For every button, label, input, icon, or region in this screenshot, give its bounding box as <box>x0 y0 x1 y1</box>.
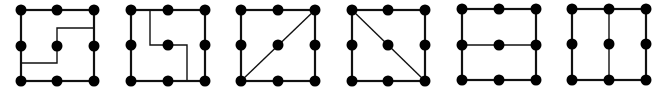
grid-dot <box>310 5 321 16</box>
grid-dot <box>383 76 394 87</box>
grid-dot <box>457 4 468 15</box>
grid-dot <box>89 41 100 52</box>
grid-dot <box>420 5 431 16</box>
grid-dot <box>383 40 394 51</box>
grid-dot <box>457 75 468 86</box>
grid-dot <box>604 75 615 86</box>
grid-dot <box>16 41 27 52</box>
grid-dot <box>200 40 211 51</box>
grid-dot <box>567 4 578 15</box>
grid-dot <box>236 76 247 87</box>
grid-dot <box>604 39 615 50</box>
grid-dot <box>273 40 284 51</box>
grid-dot <box>531 4 542 15</box>
grid-dot <box>16 76 27 87</box>
grid-dot <box>126 40 137 51</box>
grid-dot <box>347 40 358 51</box>
grid-dot <box>163 76 174 87</box>
grid-dot <box>494 4 505 15</box>
grid-dot <box>494 75 505 86</box>
grid-dot <box>236 5 247 16</box>
grid-dot <box>641 4 652 15</box>
grid-dot <box>163 5 174 16</box>
grid-dot <box>89 76 100 87</box>
grid-dot <box>641 75 652 86</box>
figure-1 <box>16 5 100 87</box>
grid-dot <box>310 40 321 51</box>
grid-dot <box>604 4 615 15</box>
grid-dot <box>52 5 63 16</box>
grid-dot <box>52 41 63 52</box>
dot-grid-figures <box>0 0 659 92</box>
grid-dot <box>236 40 247 51</box>
grid-dot <box>383 5 394 16</box>
diagram-canvas <box>0 0 659 92</box>
grid-dot <box>531 40 542 51</box>
figure-2 <box>126 5 211 87</box>
grid-dot <box>531 75 542 86</box>
grid-dot <box>310 76 321 87</box>
grid-dot <box>494 40 505 51</box>
grid-dot <box>126 5 137 16</box>
figure-4 <box>347 5 431 87</box>
grid-dot <box>89 5 100 16</box>
grid-dot <box>457 40 468 51</box>
grid-dot <box>567 75 578 86</box>
grid-dot <box>163 40 174 51</box>
grid-dot <box>420 76 431 87</box>
grid-dot <box>16 5 27 16</box>
grid-dot <box>273 5 284 16</box>
grid-dot <box>273 76 284 87</box>
figure-3 <box>236 5 321 87</box>
grid-dot <box>126 76 137 87</box>
grid-dot <box>641 39 652 50</box>
grid-dot <box>52 76 63 87</box>
grid-dot <box>420 40 431 51</box>
grid-dot <box>347 5 358 16</box>
figure-6 <box>567 4 652 86</box>
figure-5 <box>457 4 542 86</box>
grid-dot <box>200 5 211 16</box>
grid-dot <box>567 39 578 50</box>
grid-dot <box>200 76 211 87</box>
grid-dot <box>347 76 358 87</box>
